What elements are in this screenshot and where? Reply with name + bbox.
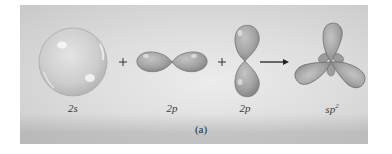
label-sp2-base: sp: [325, 103, 335, 115]
orbital-2s-sphere: [39, 28, 107, 96]
orbital-2p-vertical: [235, 25, 259, 96]
reaction-arrow-icon: [260, 59, 289, 65]
label-sp2-superscript: 2: [335, 102, 339, 110]
plus-operator-1: [119, 58, 127, 66]
orbital-sp2-hybrid: [292, 23, 369, 91]
orbital-2p-horizontal: [137, 52, 207, 72]
label-2p-vertical: 2p: [240, 102, 251, 114]
label-2p-horizontal: 2p: [167, 102, 178, 114]
label-2s: 2s: [68, 102, 78, 114]
figure-caption: (a): [195, 123, 207, 135]
label-sp2: sp2: [325, 102, 338, 115]
plus-operator-2: [218, 58, 226, 66]
